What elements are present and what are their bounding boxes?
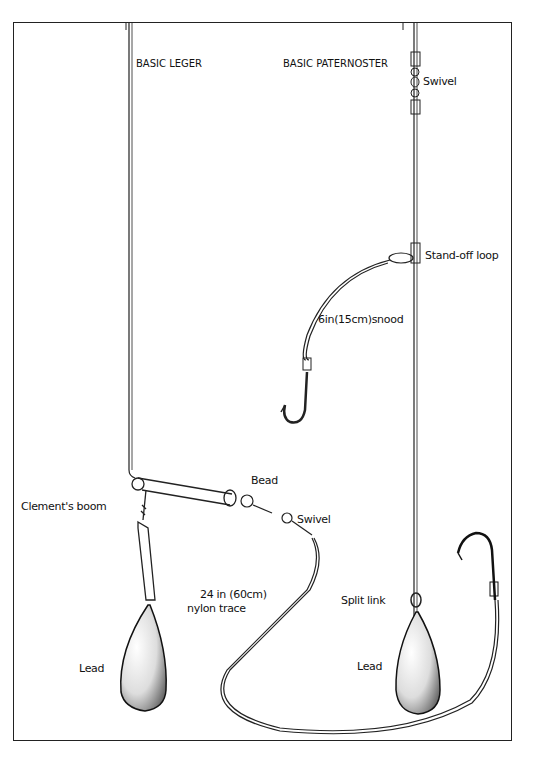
rig-title-leger: BASIC LEGER: [136, 58, 202, 69]
label-lead-right: Lead: [357, 660, 382, 673]
leger-trace: [221, 495, 499, 734]
fishing-rigs-drawing: [0, 0, 541, 759]
label-lead-left: Lead: [79, 662, 104, 675]
leger-lead-weight: [121, 605, 166, 711]
label-clements-boom: Clement's boom: [21, 500, 106, 513]
snood-and-hook: [281, 253, 413, 423]
label-swivel-leger: Swivel: [297, 513, 331, 526]
trace-hook: [458, 533, 498, 600]
label-trace-length: 24 in (60cm): [200, 588, 267, 601]
paternoster-main-line: [411, 22, 420, 650]
label-split-link: Split link: [341, 594, 385, 607]
label-bead: Bead: [251, 474, 278, 487]
label-snood: 6in(15cm)snood: [318, 313, 403, 326]
label-standoff-loop: Stand-off loop: [425, 249, 498, 262]
clements-boom: [132, 478, 236, 600]
paternoster-lead-weight: [396, 593, 440, 714]
leger-main-line: [129, 22, 135, 478]
rig-title-paternoster: BASIC PATERNOSTER: [283, 58, 388, 69]
label-swivel-top: Swivel: [423, 75, 457, 88]
label-trace-type: nylon trace: [187, 602, 246, 615]
